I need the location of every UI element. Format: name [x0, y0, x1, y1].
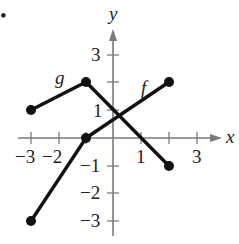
f-point-end	[164, 77, 174, 87]
y-axis-arrow-icon	[109, 29, 117, 41]
g-point-vertex	[81, 77, 91, 87]
series-g-label: g	[55, 67, 65, 88]
g-point-start	[26, 105, 36, 115]
y-tick-label-neg2: −2	[80, 182, 100, 203]
f-point-vertex	[81, 133, 91, 143]
x-tick-label-1: 1	[136, 146, 146, 167]
x-tick-label-neg3: −3	[15, 146, 35, 167]
x-tick-label-neg2: −2	[42, 146, 62, 167]
y-tick-label-1: 1	[93, 100, 103, 121]
y-tick-label-neg3: −3	[80, 210, 100, 231]
y-tick-label-3: 3	[91, 44, 101, 65]
f-point-start	[26, 216, 36, 226]
g-point-end	[164, 161, 174, 171]
graph: • −3 −2 1 3 3 1 −1 −2 −3 x y g	[0, 0, 239, 244]
x-axis-arrow-icon	[210, 134, 222, 142]
x-tick-label-3: 3	[192, 146, 202, 167]
y-tick-label-neg1: −1	[80, 155, 100, 176]
x-axis-label: x	[225, 126, 235, 147]
y-axis-label: y	[107, 3, 118, 24]
bullet-marker: •	[0, 5, 7, 26]
